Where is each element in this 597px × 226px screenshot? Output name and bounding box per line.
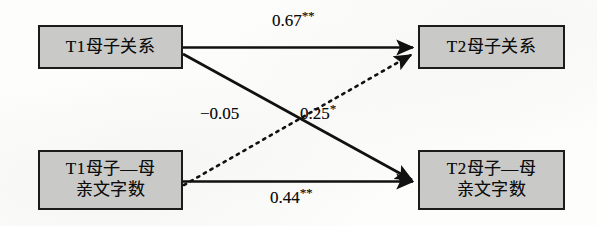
- path-coefficient-autoregressive-words: 0.44**: [270, 185, 312, 208]
- node-t1-words: T1母子—母 亲文字数: [38, 150, 183, 210]
- coefficient-value: 0.67: [272, 11, 302, 30]
- node-t1-relation: T1母子关系: [38, 25, 183, 69]
- coefficient-value: −0.05: [200, 104, 239, 123]
- node-t2-relation-label: T2母子关系: [447, 37, 536, 58]
- significance-marker: **: [300, 185, 312, 200]
- node-t2-relation: T2母子关系: [418, 25, 565, 69]
- path-diagram-figure: T1母子关系 T2母子关系 T1母子—母 亲文字数 T2母子—母 亲文字数 0.…: [0, 0, 597, 226]
- coefficient-value: 0.44: [270, 188, 300, 207]
- path-coefficient-cross-relation-to-words: −0.05: [200, 101, 239, 124]
- significance-marker: **: [302, 8, 314, 23]
- node-t1-relation-label: T1母子关系: [66, 37, 155, 58]
- node-t2-words: T2母子—母 亲文字数: [418, 150, 565, 210]
- node-t2-words-label: T2母子—母 亲文字数: [447, 159, 536, 200]
- coefficient-value: 0.25: [300, 104, 330, 123]
- node-t1-words-label: T1母子—母 亲文字数: [66, 159, 155, 200]
- significance-marker: *: [330, 101, 336, 116]
- path-coefficient-autoregressive-relation: 0.67**: [272, 8, 314, 31]
- path-coefficient-cross-words-to-relation: 0.25*: [300, 101, 336, 124]
